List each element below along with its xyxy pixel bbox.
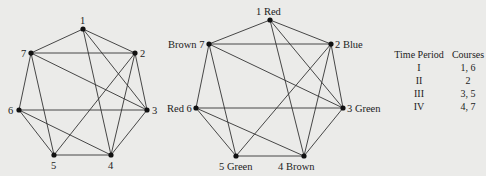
- graph-vertex: [193, 105, 198, 110]
- vertex-label: 5: [51, 160, 56, 171]
- time-period-cell: III: [388, 87, 450, 100]
- graph-edge: [19, 110, 111, 155]
- courses-cell: 2: [450, 74, 486, 87]
- graph-vertex: [233, 153, 238, 158]
- graph-vertex: [328, 41, 333, 46]
- time-period-cell: IV: [388, 100, 450, 113]
- vertex-label: Red 6: [167, 103, 192, 114]
- time-period-cell: I: [388, 61, 450, 74]
- graph-edge: [331, 44, 343, 108]
- table-header: Time Period Courses: [388, 48, 486, 61]
- vertex-label: 6: [8, 105, 13, 116]
- graph-vertex: [301, 153, 306, 158]
- graph-vertex: [267, 17, 272, 22]
- graph-vertex: [108, 152, 113, 157]
- graph-vertex: [340, 105, 345, 110]
- vertex-label: 3 Green: [347, 103, 381, 114]
- courses-cell: 1, 6: [450, 61, 486, 74]
- graph-edge: [83, 29, 135, 53]
- right-graph: 1 Red2 Blue3 Green4 Brown5 GreenRed 6Bro…: [167, 6, 381, 172]
- courses-cell: 3, 5: [450, 87, 486, 100]
- graph-edge: [135, 53, 147, 110]
- courses-cell: 4, 7: [450, 100, 486, 113]
- schedule-table: Time Period Courses I 1, 6 II 2 III 3, 5…: [388, 48, 486, 113]
- table-row: I 1, 6: [388, 61, 486, 74]
- vertex-label: 3: [152, 105, 157, 116]
- graph-edge: [19, 53, 31, 110]
- graph-edge: [31, 53, 147, 110]
- graph-vertex: [80, 26, 85, 31]
- time-period-cell: II: [388, 74, 450, 87]
- vertex-label: 4 Brown: [278, 161, 315, 172]
- graph-edge: [270, 20, 331, 44]
- vertex-label: 1: [80, 15, 85, 26]
- vertex-label: 5 Green: [219, 161, 253, 172]
- graph-vertex: [51, 152, 56, 157]
- graph-edge: [31, 29, 83, 53]
- graph-vertex: [132, 50, 137, 55]
- table-row: III 3, 5: [388, 87, 486, 100]
- vertex-label: 1 Red: [256, 6, 282, 17]
- vertex-label: 2 Blue: [335, 39, 363, 50]
- vertex-label: 2: [140, 48, 145, 59]
- graph-vertex: [16, 107, 21, 112]
- vertex-label: 4: [108, 160, 114, 171]
- table-row: IV 4, 7: [388, 100, 486, 113]
- vertex-label: Brown 7: [168, 39, 204, 50]
- graph-edge: [196, 108, 304, 156]
- graph-vertex: [144, 107, 149, 112]
- vertex-label: 7: [21, 48, 26, 59]
- graph-vertex: [206, 41, 211, 46]
- left-graph: 1234567: [8, 15, 157, 171]
- header-time-period: Time Period: [388, 48, 450, 61]
- graph-edge: [236, 44, 331, 156]
- graph-edge: [196, 44, 209, 108]
- graph-edge: [83, 29, 111, 155]
- graph-vertex: [28, 50, 33, 55]
- header-courses: Courses: [450, 48, 486, 61]
- graph-edge: [209, 20, 270, 44]
- table-row: II 2: [388, 74, 486, 87]
- graph-edge: [83, 29, 147, 110]
